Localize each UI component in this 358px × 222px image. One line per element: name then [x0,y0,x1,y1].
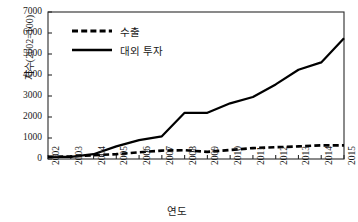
x-tick-label: 2006 [143,146,153,165]
legend-sample-lines [72,31,112,50]
x-tick-label: 2003 [75,146,85,165]
data-series-group [48,38,344,157]
x-tick-label: 2011 [257,146,267,165]
x-tick-label: 2012 [280,146,290,165]
y-tick-marks [48,12,52,159]
y-tick-label: 2000 [0,112,42,122]
y-tick-label: 6000 [0,28,42,38]
x-tick-label: 2009 [211,146,221,165]
y-tick-label: 0 [0,154,42,164]
x-tick-label: 2015 [348,146,358,165]
series-line [48,38,344,157]
x-tick-label: 2007 [166,146,176,165]
x-tick-label: 2002 [52,146,62,165]
y-tick-label: 7000 [0,7,42,17]
x-tick-label: 2008 [189,146,199,165]
y-axis-title: 지수(2002=100) [21,0,36,128]
y-tick-label: 4000 [0,70,42,80]
y-tick-label: 1000 [0,133,42,143]
legend-label: 수출 [120,24,140,39]
y-tick-label: 3000 [0,91,42,101]
x-tick-label: 2014 [325,146,335,165]
y-tick-label: 5000 [0,49,42,59]
legend-label: 대외 투자 [120,43,163,58]
x-tick-label: 2004 [98,146,108,165]
x-tick-label: 2013 [302,146,312,165]
axes-frame [48,12,344,159]
x-tick-label: 2005 [120,146,130,165]
x-tick-label: 2010 [234,146,244,165]
x-axis-title: 연도 [0,203,353,218]
